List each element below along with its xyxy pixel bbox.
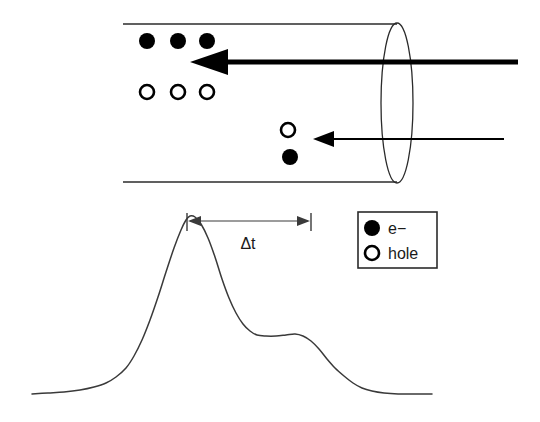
electron-marker	[170, 33, 186, 49]
cylinder-front-face-ellipse	[381, 23, 413, 183]
secondary-beam-arrowhead	[313, 131, 334, 147]
legend-label-electron: e−	[388, 220, 406, 237]
legend-filled-circle-icon	[364, 220, 380, 236]
hole-marker	[281, 123, 295, 137]
legend: e− hole	[358, 212, 437, 268]
sample-cylinder	[123, 23, 413, 183]
primary-beam-arrow	[190, 49, 518, 75]
electron-marker	[282, 149, 298, 165]
figure-root: Δt e− hole	[0, 0, 540, 422]
primary-beam-arrowhead	[190, 49, 228, 75]
electron-marker	[199, 33, 215, 49]
legend-open-circle-icon	[365, 246, 379, 260]
legend-label-hole: hole	[388, 245, 418, 262]
delta-t-label: Δt	[240, 235, 256, 252]
legend-entry-hole: hole	[365, 245, 418, 262]
delta-t-right-arrowhead	[297, 216, 310, 226]
secondary-beam-arrow	[313, 131, 504, 147]
hole-marker	[200, 85, 214, 99]
diagram-canvas: Δt e− hole	[0, 0, 540, 422]
electron-marker	[139, 33, 155, 49]
carrier-pair-lower	[281, 123, 298, 165]
hole-group-upper	[140, 85, 214, 99]
hole-marker	[140, 85, 154, 99]
electron-group-upper	[139, 33, 215, 49]
hole-marker	[171, 85, 185, 99]
